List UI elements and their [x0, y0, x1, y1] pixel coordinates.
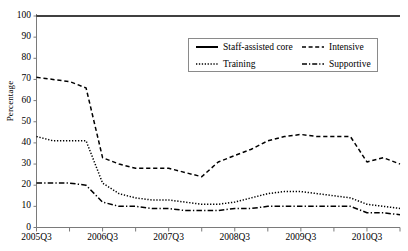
x-tick-label: 2007Q3	[144, 232, 194, 242]
legend-item-training: Training	[195, 56, 255, 72]
legend-row: Training Supportive	[189, 56, 379, 72]
legend-row: Staff-assisted core Intensive	[189, 39, 379, 55]
legend-label: Staff-assisted core	[223, 42, 293, 52]
chart-container: Percentage 0102030405060708090100 2005Q3…	[0, 0, 408, 251]
series-line	[37, 77, 401, 176]
legend-label: Intensive	[329, 42, 364, 52]
series-line	[37, 183, 401, 215]
x-tick-label: 2009Q3	[276, 232, 326, 242]
x-tick-label: 2010Q3	[342, 232, 392, 242]
legend-label: Training	[223, 59, 255, 69]
x-axis-ticks	[37, 228, 401, 232]
chart-legend: Staff-assisted core Intensive Training	[188, 38, 378, 72]
x-tick-label: 2005Q3	[12, 232, 62, 242]
series-line	[37, 137, 401, 209]
legend-swatch-dashed-icon	[301, 42, 325, 52]
x-tick-label: 2008Q3	[210, 232, 260, 242]
legend-label: Supportive	[329, 59, 371, 69]
legend-item-intensive: Intensive	[301, 39, 364, 55]
legend-swatch-dashdot-icon	[301, 59, 325, 69]
legend-swatch-solid-icon	[195, 42, 219, 52]
legend-item-supportive: Supportive	[301, 56, 371, 72]
x-tick-label: 2006Q3	[78, 232, 128, 242]
legend-item-staff-assisted-core: Staff-assisted core	[195, 39, 293, 55]
legend-swatch-dotted-icon	[195, 59, 219, 69]
